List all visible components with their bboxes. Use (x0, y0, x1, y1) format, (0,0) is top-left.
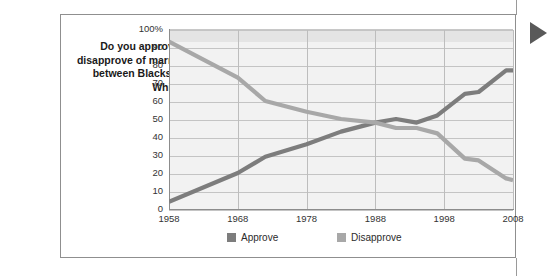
legend-label-approve: Approve (241, 232, 278, 243)
y-tick-label: 70 (117, 78, 163, 88)
legend-swatch-disapprove-icon (337, 233, 346, 242)
y-tick-label: 60 (117, 96, 163, 106)
page-divider-bottom (516, 258, 517, 276)
series-line-approve (169, 70, 513, 201)
y-tick-label: 80 (117, 60, 163, 70)
y-tick-label: 20 (117, 168, 163, 178)
x-tick-label: 1998 (421, 213, 467, 224)
x-axis-line (169, 209, 514, 210)
chart-card: Do you approve or disapprove of marriage… (60, 14, 516, 258)
line-chart: 0102030405060708090100% 1958196819781988… (61, 15, 517, 259)
y-tick-label: 10 (117, 186, 163, 196)
legend-item-disapprove[interactable]: Disapprove (337, 230, 402, 244)
legend-label-disapprove: Disapprove (351, 232, 402, 243)
y-tick-label: 90 (117, 42, 163, 52)
x-tick-label: 1988 (352, 213, 398, 224)
series-line-disapprove (169, 42, 513, 181)
x-tick-label: 1968 (215, 213, 261, 224)
gridline-horizontal (169, 210, 513, 211)
legend-swatch-approve-icon (227, 233, 236, 242)
y-tick-label: 30 (117, 150, 163, 160)
gridline-vertical (513, 30, 514, 210)
y-tick-label: 40 (117, 132, 163, 142)
series-lines (169, 29, 513, 209)
play-triangle-right-icon (530, 22, 547, 44)
legend-item-approve[interactable]: Approve (227, 230, 278, 244)
x-tick-label: 1978 (284, 213, 330, 224)
y-tick-label: 50 (117, 114, 163, 124)
chart-legend: Approve Disapprove (169, 230, 513, 248)
page-root: Do you approve or disapprove of marriage… (0, 0, 559, 276)
page-divider-top (516, 0, 517, 15)
x-tick-label: 2008 (490, 213, 536, 224)
y-tick-label: 100% (117, 24, 163, 34)
x-tick-label: 1958 (146, 213, 192, 224)
